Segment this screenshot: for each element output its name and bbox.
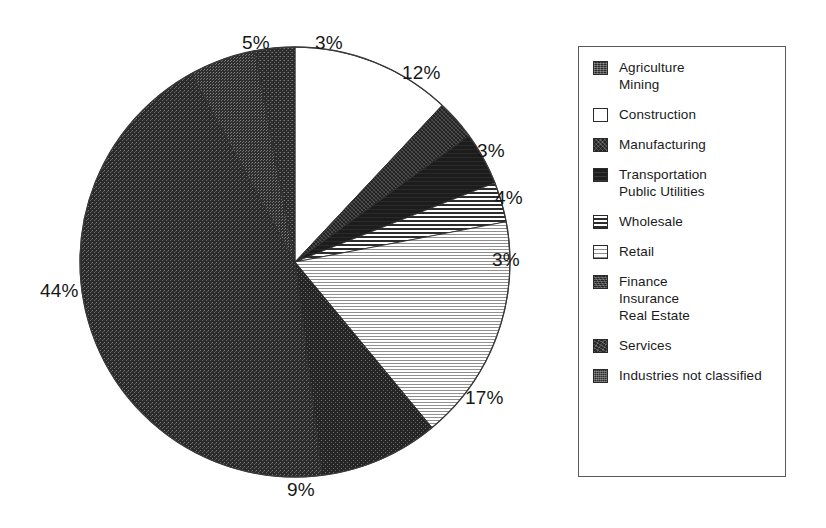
legend-item-label-line: Finance bbox=[619, 273, 690, 290]
legend-swatch-icon bbox=[593, 168, 608, 182]
legend-item-list: AgricultureMiningConstructionManufacturi… bbox=[593, 59, 781, 397]
legend-item-label-line: Mining bbox=[619, 76, 685, 93]
legend-item-label: Retail bbox=[619, 243, 654, 260]
legend-item-label-line: Services bbox=[619, 337, 672, 354]
legend-item-label: Manufacturing bbox=[619, 136, 706, 153]
pie-slice-percentage-label: 5% bbox=[242, 33, 270, 52]
legend-swatch-icon bbox=[593, 61, 608, 75]
legend-item[interactable]: Retail bbox=[593, 243, 781, 260]
pie-slice-percentage-label: 3% bbox=[492, 250, 520, 269]
pie-slice-percentage-label: 17% bbox=[465, 388, 504, 407]
legend-item-label: TransportationPublic Utilities bbox=[619, 166, 707, 200]
pie-slice-percentage-label: 3% bbox=[477, 141, 505, 160]
pie-slice-percentage-label: 44% bbox=[40, 281, 79, 300]
legend-item[interactable]: Services bbox=[593, 337, 781, 354]
legend-item-label-line: Public Utilities bbox=[619, 183, 707, 200]
legend-item-label: Construction bbox=[619, 106, 696, 123]
legend-item[interactable]: Wholesale bbox=[593, 213, 781, 230]
legend-item-label-line: Industries not classified bbox=[619, 367, 762, 384]
legend-item-label: FinanceInsuranceReal Estate bbox=[619, 273, 690, 324]
legend-item[interactable]: Construction bbox=[593, 106, 781, 123]
pie-chart: 5%3%12%3%4%3%17%9%44% bbox=[0, 0, 560, 528]
legend-item[interactable]: TransportationPublic Utilities bbox=[593, 166, 781, 200]
legend-item-label: AgricultureMining bbox=[619, 59, 685, 93]
legend-item[interactable]: AgricultureMining bbox=[593, 59, 781, 93]
pie-chart-svg bbox=[0, 0, 560, 528]
legend-item-label-line: Manufacturing bbox=[619, 136, 706, 153]
legend-item-label: Services bbox=[619, 337, 672, 354]
pie-slice-percentage-label: 4% bbox=[495, 188, 523, 207]
chart-canvas: 5%3%12%3%4%3%17%9%44% AgricultureMiningC… bbox=[0, 0, 826, 528]
legend-item[interactable]: Manufacturing bbox=[593, 136, 781, 153]
pie-slice-percentage-label: 9% bbox=[287, 480, 315, 499]
legend-swatch-icon bbox=[593, 215, 608, 229]
legend-item-label-line: Retail bbox=[619, 243, 654, 260]
legend-item-label-line: Insurance bbox=[619, 290, 690, 307]
pie-slice-percentage-label: 3% bbox=[315, 33, 343, 52]
legend-item-label-line: Construction bbox=[619, 106, 696, 123]
legend-item-label: Wholesale bbox=[619, 213, 683, 230]
legend-swatch-icon bbox=[593, 245, 608, 259]
legend-item[interactable]: FinanceInsuranceReal Estate bbox=[593, 273, 781, 324]
legend-item[interactable]: Industries not classified bbox=[593, 367, 781, 384]
legend-swatch-icon bbox=[593, 275, 608, 289]
legend-swatch-icon bbox=[593, 138, 608, 152]
pie-slice-percentage-label: 12% bbox=[402, 63, 441, 82]
legend-item-label-line: Agriculture bbox=[619, 59, 685, 76]
legend-swatch-icon bbox=[593, 108, 608, 122]
legend-item-label-line: Real Estate bbox=[619, 307, 690, 324]
legend-item-label-line: Wholesale bbox=[619, 213, 683, 230]
legend: AgricultureMiningConstructionManufacturi… bbox=[578, 46, 786, 477]
legend-swatch-icon bbox=[593, 339, 608, 353]
legend-swatch-icon bbox=[593, 369, 608, 383]
legend-item-label-line: Transportation bbox=[619, 166, 707, 183]
legend-item-label: Industries not classified bbox=[619, 367, 762, 384]
